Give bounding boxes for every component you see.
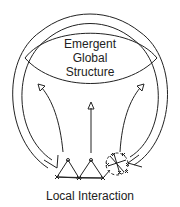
left-feedback-arrowhead-icon (44, 155, 58, 168)
label-line-2: Global (73, 51, 108, 65)
label-line-3: Structure (66, 65, 115, 79)
left-upward-arrow (38, 84, 63, 152)
label-line-1: Emergent (64, 37, 117, 51)
global-structure-label: Emergent Global Structure (64, 37, 117, 79)
right-upward-arrow (120, 84, 144, 152)
local-interaction-label: Local Interaction (46, 189, 134, 203)
emergence-diagram: Emergent Global Structure Local Interact… (0, 0, 180, 207)
center-upward-arrow (88, 102, 94, 153)
local-network (55, 153, 129, 180)
